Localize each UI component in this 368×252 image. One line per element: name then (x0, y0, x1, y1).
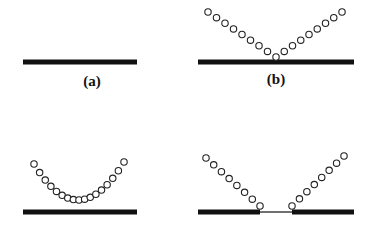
boson-quantum-16 (331, 14, 337, 20)
boson-quantum-12 (93, 191, 99, 197)
boson-quantum-15 (322, 20, 328, 26)
boson-quantum-3 (42, 177, 48, 183)
panel-a-label: (a) (0, 74, 184, 89)
panel-b: (b) (184, 0, 368, 126)
panel-d-diagram (184, 126, 368, 252)
boson-quantum-16 (115, 168, 121, 174)
boson-quantum-15 (110, 175, 116, 181)
panel-c-boson-chain (31, 159, 127, 203)
boson-quantum-10 (296, 196, 302, 202)
boson-quantum-7 (249, 196, 255, 202)
boson-quantum-11 (304, 189, 310, 195)
boson-quantum-1 (205, 9, 211, 15)
boson-quantum-9 (289, 203, 295, 209)
boson-quantum-13 (98, 187, 104, 193)
panel-b-boson-chain (205, 9, 345, 60)
boson-quantum-2 (36, 169, 42, 175)
boson-quantum-6 (247, 37, 253, 43)
boson-quantum-13 (319, 174, 325, 180)
boson-quantum-4 (226, 175, 232, 181)
panel-b-diagram (184, 0, 368, 126)
panel-d: (d) (184, 126, 368, 252)
boson-quantum-17 (339, 9, 345, 15)
boson-quantum-1 (31, 161, 37, 167)
boson-quantum-2 (211, 162, 217, 168)
panel-a-diagram (0, 0, 184, 126)
panel-a: (a) (0, 0, 184, 126)
boson-quantum-8 (257, 203, 263, 209)
boson-quantum-16 (341, 153, 347, 159)
boson-quantum-14 (326, 167, 332, 173)
boson-quantum-10 (281, 48, 287, 54)
boson-quantum-5 (239, 31, 245, 37)
boson-quantum-14 (314, 26, 320, 32)
panel-b-label: (b) (184, 72, 368, 87)
boson-quantum-3 (218, 169, 224, 175)
boson-quantum-14 (104, 182, 110, 188)
boson-quantum-5 (53, 188, 59, 194)
boson-quantum-5 (234, 182, 240, 188)
boson-quantum-8 (264, 48, 270, 54)
panel-c-diagram (0, 126, 184, 252)
panel-b-label-text: (b) (267, 72, 285, 87)
boson-quantum-3 (222, 20, 228, 26)
boson-quantum-12 (298, 37, 304, 43)
boson-quantum-4 (230, 26, 236, 32)
boson-quantum-12 (311, 181, 317, 187)
boson-quantum-17 (121, 159, 127, 165)
boson-quantum-2 (213, 14, 219, 20)
figure-root: (a) (b) (c) (d) (0, 0, 368, 252)
panel-a-label-text: (a) (83, 74, 101, 89)
boson-quantum-9 (273, 54, 279, 60)
boson-quantum-13 (306, 31, 312, 37)
boson-quantum-11 (289, 43, 295, 49)
boson-quantum-7 (256, 43, 262, 49)
boson-quantum-6 (241, 189, 247, 195)
panel-d-boson-chain (203, 153, 347, 209)
boson-quantum-1 (203, 155, 209, 161)
panel-c: (c) (0, 126, 184, 252)
boson-quantum-4 (48, 183, 54, 189)
boson-quantum-15 (333, 160, 339, 166)
